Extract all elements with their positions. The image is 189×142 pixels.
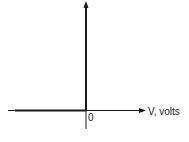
x-axis-label: V, volts <box>148 107 180 117</box>
origin-label: 0 <box>88 113 94 123</box>
y-axis-arrow-icon <box>84 1 89 8</box>
x-axis-arrow-icon <box>139 108 146 113</box>
iv-characteristic-diagram <box>0 0 189 142</box>
